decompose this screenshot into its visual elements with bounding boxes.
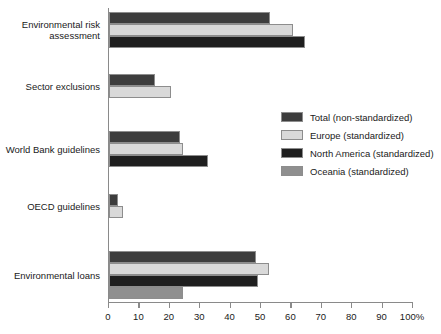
x-axis-tick-label: 90: [376, 311, 387, 322]
x-axis-tick-label: 70: [316, 311, 327, 322]
x-axis-tick-label: 60: [285, 311, 296, 322]
bar: [109, 86, 171, 98]
legend-label: Europe (standardized): [310, 130, 404, 141]
legend-swatch-icon: [281, 148, 303, 158]
legend-label: North America (standardized): [310, 148, 434, 159]
bar: [109, 131, 180, 143]
x-axis-tick-label: 20: [164, 311, 175, 322]
bar: [109, 24, 293, 36]
bar: [109, 143, 183, 155]
x-axis-tick: [260, 302, 261, 308]
legend-item: Oceania (standardized): [281, 164, 441, 178]
x-axis-tick: [108, 302, 109, 308]
bar-chart: Environmental risk assessmentSector excl…: [0, 0, 441, 334]
x-axis-tick: [412, 302, 413, 308]
chart-legend: Total (non-standardized)Europe (standard…: [281, 110, 441, 182]
legend-item: North America (standardized): [281, 146, 441, 160]
x-axis-tick-label: 100%: [400, 311, 424, 322]
legend-label: Oceania (standardized): [310, 166, 409, 177]
bar: [109, 36, 305, 48]
x-axis-tick-label: 50: [255, 311, 266, 322]
x-axis-tick: [290, 302, 291, 308]
bar: [109, 275, 258, 287]
category-label: World Bank guidelines: [0, 144, 100, 155]
x-axis-tick: [138, 302, 139, 308]
bar: [109, 12, 270, 24]
bar: [109, 263, 269, 275]
x-axis-tick: [199, 302, 200, 308]
category-label: Environmental loans: [0, 270, 100, 281]
category-label: OECD guidelines: [0, 201, 100, 212]
x-axis-tick: [382, 302, 383, 308]
legend-swatch-icon: [281, 130, 303, 140]
x-axis-tick-label: 80: [346, 311, 357, 322]
bar: [109, 155, 208, 167]
x-axis-tick-label: 40: [224, 311, 235, 322]
legend-item: Europe (standardized): [281, 128, 441, 142]
category-label: Environmental risk assessment: [0, 19, 100, 41]
x-axis-tick: [169, 302, 170, 308]
legend-label: Total (non-standardized): [310, 112, 412, 123]
x-axis-tick-label: 0: [105, 311, 110, 322]
category-label: Sector exclusions: [0, 81, 100, 92]
bar: [109, 287, 183, 299]
bar: [109, 194, 118, 206]
legend-swatch-icon: [281, 166, 303, 176]
legend-item: Total (non-standardized): [281, 110, 441, 124]
bar: [109, 74, 155, 86]
x-axis-tick-label: 10: [133, 311, 144, 322]
bar: [109, 251, 256, 263]
x-axis-tick: [230, 302, 231, 308]
bar: [109, 206, 123, 218]
legend-swatch-icon: [281, 112, 303, 122]
x-axis-tick-label: 30: [194, 311, 205, 322]
x-axis-tick: [351, 302, 352, 308]
x-axis-tick: [321, 302, 322, 308]
